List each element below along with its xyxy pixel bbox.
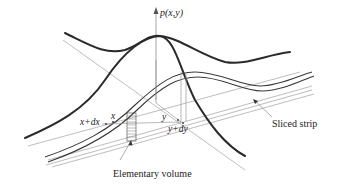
proj-base-link — [156, 103, 181, 122]
joint-pdf-diagram: p(x,y) x+dx x y y+dy Sliced strip Elemen… — [0, 0, 346, 189]
axis-arrow-icon — [154, 7, 159, 14]
axis-label-pxy: p(x,y) — [159, 7, 184, 19]
label-y-plus-dy: y+dy — [167, 124, 188, 134]
leader-lines — [120, 100, 272, 160]
label-x: x — [110, 111, 116, 121]
label-sliced-strip: Sliced strip — [272, 118, 317, 129]
label-x-plus-dx: x+dx — [79, 117, 100, 127]
label-elementary-volume: Elementary volume — [113, 168, 192, 179]
ground-plane-lines — [28, 40, 314, 170]
sliced-strip-leader — [254, 100, 272, 117]
slice-curve-upper — [45, 72, 312, 157]
label-y: y — [161, 112, 167, 122]
